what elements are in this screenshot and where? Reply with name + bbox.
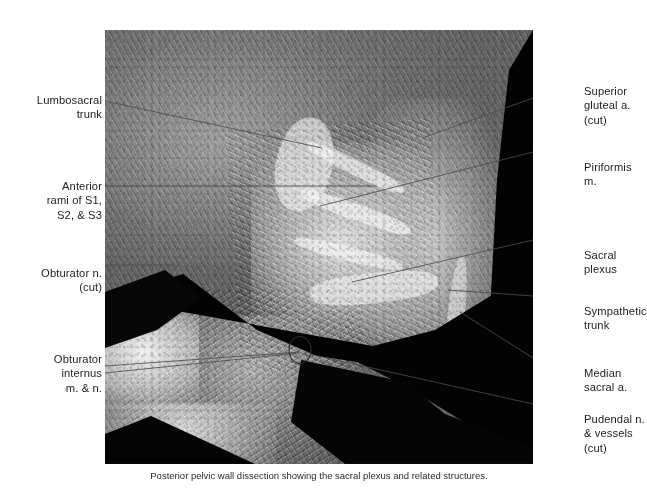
label-median-sacral-artery-text: Median sacral a.	[584, 367, 627, 394]
photo-canvas	[105, 30, 533, 464]
label-sacral-plexus-text: Sacral plexus	[584, 249, 617, 276]
label-superior-gluteal-artery: Superior gluteal a. (cut)	[584, 69, 644, 127]
label-obturator-nerve-text: Obturator n. (cut)	[41, 267, 102, 294]
figure-caption: Posterior pelvic wall dissection showing…	[105, 470, 533, 488]
photo-grayscale-filter	[105, 30, 533, 464]
label-sympathetic-trunk: Sympathetic trunk	[584, 289, 646, 333]
label-pudendal-text: Pudendal n. & vessels (cut)	[584, 413, 645, 454]
label-sympathetic-trunk-text: Sympathetic trunk	[584, 305, 647, 332]
label-sacral-plexus: Sacral plexus	[584, 233, 646, 277]
dissection-photograph	[105, 30, 533, 464]
label-piriformis-text: Piriformis m.	[584, 161, 632, 188]
label-obturator-internus: Obturator internus m. & n.	[6, 337, 102, 395]
label-superior-gluteal-artery-text: Superior gluteal a. (cut)	[584, 85, 630, 126]
label-anterior-rami-text: Anterior rami of S1, S2, & S3	[47, 180, 102, 221]
label-anterior-rami: Anterior rami of S1, S2, & S3	[6, 164, 102, 222]
label-piriformis: Piriformis m.	[584, 145, 646, 189]
label-lumbosacral-trunk-text: Lumbosacral trunk	[37, 94, 102, 121]
label-median-sacral-artery: Median sacral a.	[584, 351, 644, 395]
label-lumbosacral-trunk: Lumbosacral trunk	[6, 78, 102, 122]
figure-caption-text: Posterior pelvic wall dissection showing…	[150, 470, 487, 481]
label-obturator-internus-text: Obturator internus m. & n.	[54, 353, 102, 394]
label-pudendal: Pudendal n. & vessels (cut)	[584, 397, 646, 455]
label-obturator-nerve: Obturator n. (cut)	[6, 251, 102, 295]
